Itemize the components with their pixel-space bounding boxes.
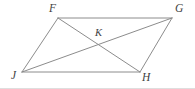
segment-jf [22, 18, 58, 72]
geometry-figure: F G J H K [0, 0, 195, 89]
parallelogram-diagram [0, 0, 195, 89]
intersection-label-k: K [95, 28, 102, 39]
vertex-label-j: J [11, 70, 16, 82]
vertex-label-h: H [142, 72, 150, 84]
bottom-edge-artifact [0, 88, 195, 89]
vertex-label-g: G [175, 3, 183, 15]
vertex-label-f: F [49, 3, 56, 15]
segment-gh [140, 18, 172, 72]
